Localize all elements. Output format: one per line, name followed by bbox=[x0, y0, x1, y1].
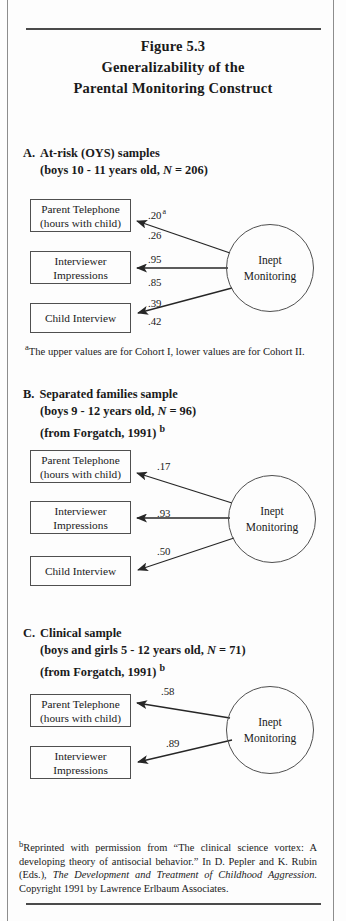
coefficient-c-1: .58 bbox=[161, 686, 175, 697]
coefficient-c-1-value: .58 bbox=[161, 685, 175, 697]
bottom-footnote-part2: Copyright 1991 by Lawrence Erlbaum Assoc… bbox=[19, 883, 229, 894]
bottom-footnote: bReprinted with permission from “The cli… bbox=[19, 838, 317, 895]
figure-page: Figure 5.3 Generalizability of the Paren… bbox=[0, 0, 346, 921]
indicator-c-2-line2: Impressions bbox=[53, 763, 108, 777]
indicator-box-c-interviewer-impressions: Interviewer Impressions bbox=[30, 746, 131, 779]
latent-c-line2: Monitoring bbox=[244, 730, 296, 746]
indicator-c-1-line1: Parent Telephone bbox=[41, 697, 119, 711]
diagram-c-paths bbox=[0, 0, 346, 921]
indicator-c-2-line1: Interviewer bbox=[54, 749, 106, 763]
indicator-c-1-line2: (hours with child) bbox=[40, 711, 121, 725]
latent-circle-c-inept-monitoring: Inept Monitoring bbox=[226, 686, 314, 774]
coefficient-c-2-value: .89 bbox=[166, 737, 180, 749]
latent-c-line1: Inept bbox=[258, 714, 282, 730]
indicator-box-c-parent-telephone: Parent Telephone (hours with child) bbox=[30, 694, 131, 727]
bottom-footnote-book-title: The Development and Treatment of Childho… bbox=[53, 869, 317, 880]
coefficient-c-2: .89 bbox=[166, 738, 180, 749]
